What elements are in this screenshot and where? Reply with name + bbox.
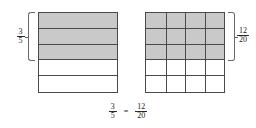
right-model-column-divider bbox=[166, 13, 167, 92]
left-fraction-label: 3 5 bbox=[14, 28, 27, 45]
right-fraction-denominator: 20 bbox=[237, 36, 249, 44]
equals-sign: = bbox=[119, 107, 134, 116]
left-fraction-denominator: 5 bbox=[17, 37, 25, 45]
left-model-row bbox=[39, 45, 117, 61]
left-brace bbox=[28, 12, 35, 61]
left-fraction: 3 5 bbox=[17, 28, 25, 45]
equation-right-denominator: 20 bbox=[135, 112, 147, 120]
equation-left-denominator: 5 bbox=[109, 112, 117, 120]
right-brace bbox=[228, 12, 235, 61]
right-fraction-label: 12 20 bbox=[237, 27, 253, 44]
right-model-column-divider bbox=[185, 13, 186, 92]
left-fraction-model bbox=[38, 12, 118, 93]
equation-right-fraction: 12 20 bbox=[135, 103, 147, 120]
right-fraction-model bbox=[145, 12, 225, 93]
equation-left-fraction: 3 5 bbox=[109, 103, 117, 120]
equivalence-equation: 3 5 = 12 20 bbox=[0, 103, 256, 120]
left-model-row bbox=[39, 13, 117, 29]
equivalent-fractions-figure: 3 5 12 20 3 5 = 12 20 bbox=[0, 0, 256, 128]
right-model-column-divider bbox=[205, 13, 206, 92]
right-fraction: 12 20 bbox=[237, 27, 249, 44]
left-model-row bbox=[39, 60, 117, 76]
left-model-row bbox=[39, 29, 117, 45]
left-model-row bbox=[39, 76, 117, 92]
